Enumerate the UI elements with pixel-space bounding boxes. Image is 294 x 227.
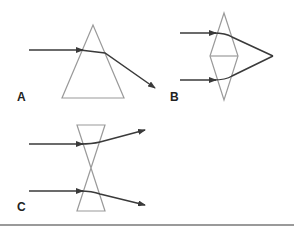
panel-b <box>180 13 273 100</box>
panel-c <box>29 125 145 211</box>
panel-label-c: C <box>17 200 26 214</box>
panel-label-a: A <box>17 90 26 104</box>
bottom-divider <box>0 224 294 226</box>
concave-lens-shape <box>77 125 105 211</box>
lower-refracted-ray <box>80 191 145 205</box>
prism-shape <box>62 25 124 98</box>
upper-refracted-ray <box>213 33 273 56</box>
upper-refracted-ray <box>80 130 145 144</box>
refraction-diagram <box>0 0 294 227</box>
panel-a <box>29 25 155 98</box>
panel-label-b: B <box>170 90 179 104</box>
lower-refracted-ray <box>213 56 273 80</box>
